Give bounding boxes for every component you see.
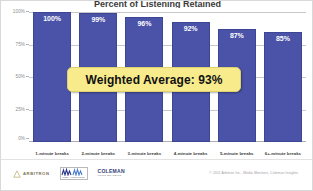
y-tick-label-50: 50%: [3, 74, 25, 79]
x-label-1: 1-minute breaks: [29, 151, 75, 157]
media-monitors-logo: MEDIA MONITORS: [60, 167, 88, 180]
media-monitors-waveform-icon: [61, 168, 87, 176]
arbitron-triangle-icon: [13, 170, 21, 178]
bar-6-plus-minute-breaks[interactable]: 85%: [264, 32, 302, 143]
bar-value-label-1: 100%: [34, 15, 70, 22]
coleman-logo-subtext: MUSIC BRANDING: [98, 175, 125, 178]
bar-slot-6: 85%: [260, 12, 306, 142]
bar-1-minute-breaks[interactable]: 100%: [33, 12, 71, 142]
x-label-6: 6+-minute breaks: [260, 151, 306, 157]
x-label-3: 3-minute breaks: [121, 151, 167, 157]
y-tick-label-25: 25%: [3, 107, 25, 112]
weighted-average-text: Weighted Average: 93%: [85, 73, 222, 87]
bar-value-label-6: 85%: [265, 35, 301, 42]
slide-footer: ARBITRON MEDIA MONITORS COLEMAN MUSIC BR…: [1, 159, 312, 190]
bar-value-label-5: 87%: [219, 32, 255, 39]
y-tick-label-75: 75%: [3, 42, 25, 47]
weighted-average-callout: Weighted Average: 93%: [67, 67, 241, 92]
partner-logos: ARBITRON MEDIA MONITORS COLEMAN MUSIC BR…: [13, 167, 125, 180]
bar-value-label-4: 92%: [173, 25, 209, 32]
arbitron-logo: ARBITRON: [13, 170, 50, 178]
bar-value-label-2: 99%: [80, 16, 116, 23]
y-tick-label-100: 100%: [3, 9, 25, 14]
coleman-insights-logo: COLEMAN MUSIC BRANDING: [98, 169, 125, 178]
media-monitors-logo-text: MEDIA MONITORS: [61, 176, 87, 179]
y-tick-label-0: 0%: [3, 136, 25, 141]
clipped-title: Percent of Listening Retained: [1, 1, 313, 8]
copyright-notice: © 2011 Arbitron Inc., Media Monitors, Co…: [209, 171, 298, 175]
arbitron-logo-text: ARBITRON: [23, 171, 50, 176]
x-label-2: 2-minute breaks: [75, 151, 121, 157]
x-label-5: 5-minute breaks: [214, 151, 260, 157]
x-label-4: 4-minute breaks: [168, 151, 214, 157]
slide-canvas: Percent of Listening Retained 100% 75% 5…: [0, 0, 313, 191]
bar-value-label-3: 96%: [126, 20, 162, 27]
x-axis-labels: 1-minute breaks 2-minute breaks 3-minute…: [29, 145, 306, 157]
